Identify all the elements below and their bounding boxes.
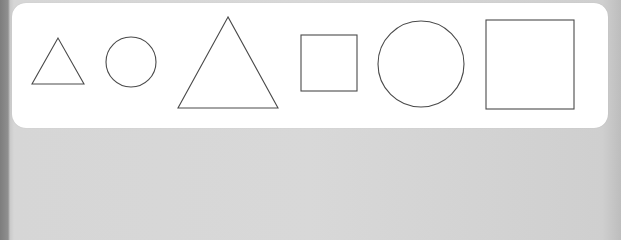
- large-triangle-shape: [178, 17, 278, 108]
- small-circle-shape: [106, 37, 156, 87]
- large-square-shape: [486, 20, 574, 109]
- large-circle-shape: [378, 21, 464, 107]
- small-square-shape: [301, 35, 357, 91]
- shapes-canvas: [0, 0, 621, 131]
- small-triangle-shape: [32, 38, 84, 84]
